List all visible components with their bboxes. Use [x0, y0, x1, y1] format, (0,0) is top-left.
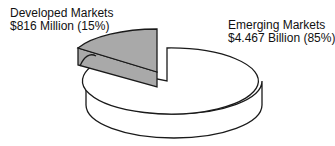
label-developed-markets: Developed Markets $816 Million (15%): [10, 7, 113, 33]
label-emerging-markets: Emerging Markets $4.467 Billion (85%): [228, 19, 335, 45]
label-developed-value: $816 Million (15%): [10, 20, 113, 33]
label-emerging-value: $4.467 Billion (85%): [228, 32, 335, 45]
